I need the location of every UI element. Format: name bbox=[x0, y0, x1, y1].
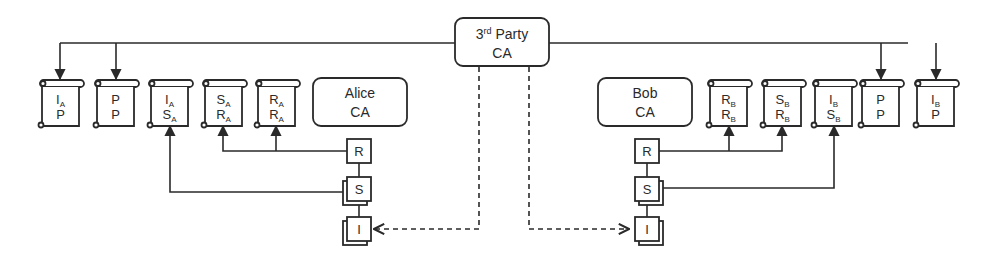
certificate-diagram: 3rd Party CA IAPPPIASASARARARA RBRBSBRBI… bbox=[0, 0, 994, 268]
alice-key-hierarchy: R S I bbox=[170, 126, 371, 245]
alice-intermediate-key-label: I bbox=[357, 222, 361, 237]
certificate-scroll: RBRB bbox=[707, 80, 753, 128]
alice-signing-key-label: S bbox=[355, 182, 364, 197]
cross-certification-dashed-lines bbox=[374, 67, 629, 229]
alice-ca-label-line1: Alice bbox=[345, 85, 376, 101]
bob-key-hierarchy: R S I bbox=[635, 126, 834, 245]
bob-ca-label-line1: Bob bbox=[633, 85, 658, 101]
certificate-scroll: PP bbox=[859, 80, 905, 128]
certificate-issuer: P bbox=[56, 107, 65, 122]
certificate-subject: P bbox=[111, 92, 120, 107]
certificate-scroll: RARA bbox=[255, 80, 301, 128]
third-party-ca-box: 3rd Party CA bbox=[455, 18, 549, 66]
certificate-scroll: IBSB bbox=[812, 80, 858, 128]
certificate-issuer: P bbox=[931, 107, 940, 122]
alice-ca-label-line2: CA bbox=[350, 104, 370, 120]
alice-root-key-label: R bbox=[354, 144, 363, 159]
certificate-scroll: SARA bbox=[202, 80, 248, 128]
certificate-issuer: P bbox=[111, 107, 120, 122]
bob-ca-label-line2: CA bbox=[635, 104, 655, 120]
certificate-scroll: IAP bbox=[39, 80, 85, 128]
bob-signing-key-label: S bbox=[643, 182, 652, 197]
bob-certificate-scrolls: RBRBSBRBIBSBPPIBP bbox=[707, 80, 960, 128]
certificate-issuer: P bbox=[876, 107, 885, 122]
alice-ca-box: Alice CA bbox=[313, 78, 407, 126]
certificate-scroll: IBP bbox=[914, 80, 960, 128]
third-party-ca-label-line2: CA bbox=[492, 45, 512, 61]
certificate-scroll: SBRB bbox=[761, 80, 807, 128]
certificate-scroll: PP bbox=[94, 80, 140, 128]
bob-root-key-label: R bbox=[642, 144, 651, 159]
certificate-subject: P bbox=[876, 92, 885, 107]
bob-intermediate-key-label: I bbox=[645, 222, 649, 237]
bob-ca-box: Bob CA bbox=[598, 78, 692, 126]
certificate-scroll: IASA bbox=[148, 80, 194, 128]
alice-certificate-scrolls: IAPPPIASASARARARA bbox=[39, 80, 301, 128]
